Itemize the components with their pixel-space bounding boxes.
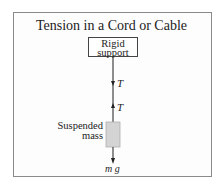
mass-label-line2: mass (50, 131, 103, 141)
mass-label: Suspended mass (50, 121, 103, 140)
suspended-mass-block (106, 122, 120, 147)
weight-label: m g (105, 163, 120, 174)
tension-upper-label: T (117, 77, 123, 89)
tension-lower-arrow-icon (111, 103, 115, 108)
force-diagram-graphics (0, 0, 223, 186)
tension-upper-arrow-icon (111, 81, 115, 86)
tension-lower-label: T (117, 101, 123, 113)
